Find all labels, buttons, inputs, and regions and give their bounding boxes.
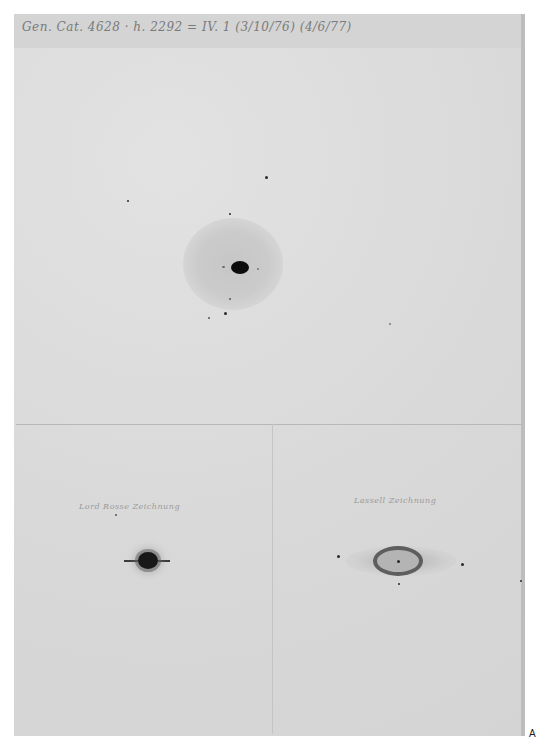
header-inscription: Gen. Cat. 4628 · h. 2292 = IV. 1 (3/10/7…	[22, 20, 352, 34]
sheet-edge	[521, 14, 525, 736]
central-star	[231, 261, 249, 274]
field-star	[337, 555, 340, 558]
field-star	[229, 213, 231, 215]
field-star	[208, 317, 210, 319]
field-star	[520, 580, 522, 582]
field-star	[222, 266, 225, 268]
field-star	[127, 200, 129, 202]
paper-sheet	[14, 14, 525, 736]
field-star	[229, 298, 231, 300]
horizontal-divider	[16, 424, 522, 425]
field-star	[224, 312, 227, 315]
field-star	[389, 323, 391, 325]
field-star	[257, 268, 259, 270]
field-star	[461, 563, 464, 566]
star-disc	[138, 552, 158, 569]
caption-left: Lord Rosse Zeichnung	[79, 502, 180, 511]
field-star	[265, 176, 268, 179]
central-star	[397, 560, 400, 563]
corner-mark: A	[529, 728, 536, 739]
vertical-divider	[272, 424, 273, 734]
caption-right: Lassell Zeichnung	[354, 496, 436, 505]
field-star	[398, 583, 400, 585]
field-star	[115, 514, 117, 516]
